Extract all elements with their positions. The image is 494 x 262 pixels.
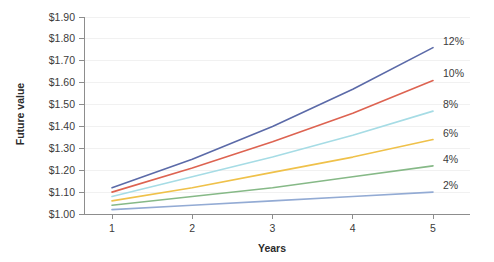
x-axis-tick-label: 3 [270,222,276,234]
chart-canvas: $1.00$1.10$1.20$1.30$1.40$1.50$1.60$1.70… [0,0,494,262]
series-label-12pct: 12% [443,35,464,47]
x-axis-tick-label: 4 [350,222,356,234]
y-axis-tick-label: $1.30 [49,142,75,154]
x-axis-tick-label: 1 [109,222,115,234]
y-axis-tick-label: $1.50 [49,98,75,110]
series-label-8pct: 8% [443,98,458,110]
y-axis-tick-label: $1.20 [49,164,75,176]
x-axis-title: Years [258,242,286,254]
series-label-10pct: 10% [443,67,464,79]
x-axis-tick-label: 5 [430,222,436,234]
y-axis-tick-label: $1.10 [49,186,75,198]
y-axis-tick-label: $1.40 [49,120,75,132]
y-axis-tick-label: $1.60 [49,76,75,88]
y-axis-title: Future value [14,83,26,146]
series-label-4pct: 4% [443,153,458,165]
series-label-6pct: 6% [443,127,458,139]
x-axis-tick-label: 2 [189,222,195,234]
y-axis-tick-label: $1.00 [49,208,75,220]
future-value-chart: $1.00$1.10$1.20$1.30$1.40$1.50$1.60$1.70… [0,0,494,262]
y-axis-tick-label: $1.90 [49,11,75,23]
y-axis-tick-label: $1.80 [49,32,75,44]
y-axis-tick-label: $1.70 [49,54,75,66]
series-label-2pct: 2% [443,179,458,191]
